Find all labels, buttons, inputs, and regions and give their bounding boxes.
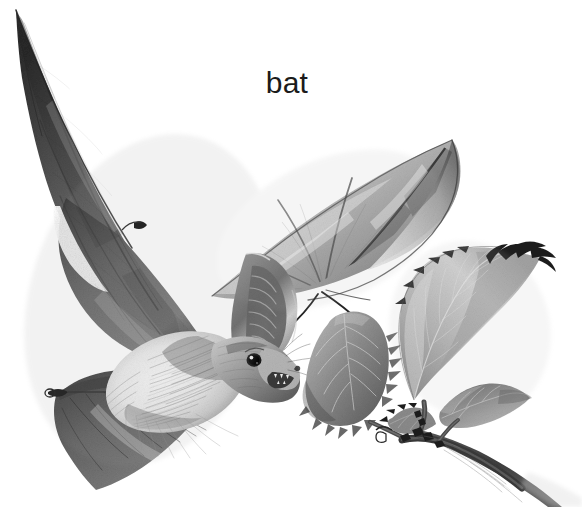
page-title: bat [0,66,578,100]
illustration-plate: bat [0,0,582,507]
